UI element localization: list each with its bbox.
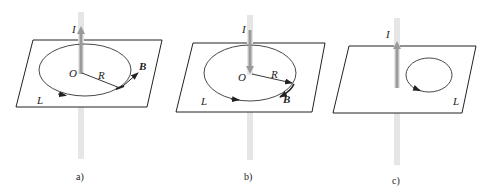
- caption-c: c): [392, 175, 400, 187]
- loop-label: L: [200, 95, 207, 107]
- radius-label: R: [97, 69, 105, 81]
- center-label: O: [69, 67, 77, 79]
- current-label: I: [385, 28, 391, 40]
- field-label: B: [138, 60, 146, 72]
- center-label: O: [238, 71, 246, 83]
- panel-c: I L c): [333, 18, 476, 187]
- caption-b: b): [244, 171, 252, 183]
- panel-a: I O R B L a): [16, 12, 162, 183]
- current-label: I: [71, 23, 77, 35]
- loop-label: L: [452, 95, 459, 107]
- current-rod-lower: [247, 112, 253, 160]
- current-rod-lower: [394, 113, 400, 165]
- loop-label: L: [36, 94, 43, 106]
- current-label: I: [241, 23, 247, 35]
- caption-a: a): [76, 171, 84, 183]
- current-rod-lower: [78, 107, 84, 159]
- ampere-law-figure: I O R B L a) I O R B L b): [0, 0, 487, 193]
- radius-label: R: [270, 68, 278, 80]
- field-label: B: [282, 93, 290, 105]
- panel-b: I O R B L b): [176, 15, 325, 183]
